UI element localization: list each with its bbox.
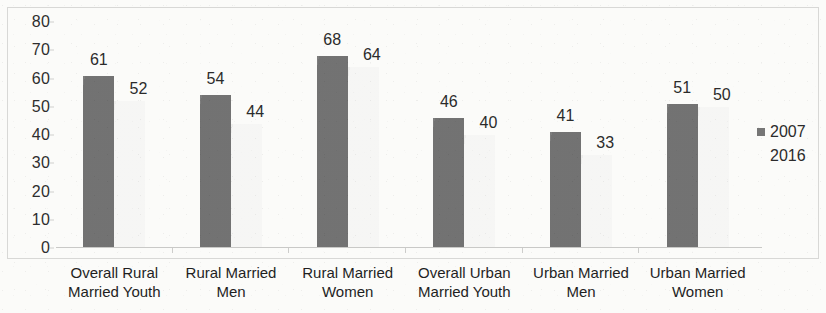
category-label-line: Urban Married	[650, 264, 746, 281]
category-label-line: Men	[175, 282, 288, 301]
bar-2016[interactable]: 52	[114, 101, 145, 248]
category-label-line: Overall Urban	[418, 264, 511, 281]
category-label-line: Married Youth	[58, 282, 171, 301]
bar-value-label: 44	[246, 104, 264, 120]
chart-legend: 20072016	[757, 120, 821, 168]
y-axis-tick-mark	[50, 22, 54, 23]
bar-pair: 6864	[289, 22, 406, 248]
x-axis-tick-mark	[405, 248, 406, 253]
bar-pair: 5444	[173, 22, 290, 248]
y-axis-tick-mark	[50, 191, 54, 192]
bar-2007[interactable]: 61	[83, 76, 114, 248]
bar-group: 6152	[56, 22, 173, 248]
category-label-line: Women	[291, 282, 404, 301]
bar-value-label: 40	[480, 115, 498, 131]
bar-pair: 4133	[523, 22, 640, 248]
y-axis-tick-mark	[50, 50, 54, 51]
legend-label: 2007	[770, 124, 806, 140]
y-axis-tick-mark	[50, 248, 54, 249]
x-axis-category-label: Urban MarriedWomen	[639, 263, 756, 301]
bar-2007[interactable]: 41	[550, 132, 581, 248]
bar-groups: 615254446864464041335150	[56, 22, 756, 248]
bar-2016[interactable]: 33	[581, 155, 612, 248]
x-axis-category-label: Rural MarriedMen	[173, 263, 290, 301]
bar-2007[interactable]: 68	[317, 56, 348, 248]
bar-2007[interactable]: 54	[200, 95, 231, 248]
bar-2016[interactable]: 50	[698, 107, 729, 248]
bar-value-label: 33	[596, 135, 614, 151]
y-axis-tick-label: 0	[20, 240, 50, 256]
plot-area: 615254446864464041335150	[56, 22, 756, 248]
x-axis-category-label: Rural MarriedWomen	[289, 263, 406, 301]
x-axis-tick-mark	[638, 248, 639, 253]
bar-value-label: 46	[440, 94, 458, 110]
legend-item-2016[interactable]: 2016	[757, 144, 821, 168]
y-axis-tick-mark	[50, 163, 54, 164]
y-axis-tick-label: 50	[20, 99, 50, 115]
legend-item-2007[interactable]: 2007	[757, 120, 821, 144]
category-label-line: Men	[525, 282, 638, 301]
y-axis-tick-label: 10	[20, 212, 50, 228]
x-axis-tick-mark	[288, 248, 289, 253]
x-axis-category-labels: Overall RuralMarried YouthRural MarriedM…	[56, 263, 756, 301]
y-axis-tick-label: 70	[20, 42, 50, 58]
x-axis-category-label: Overall RuralMarried Youth	[56, 263, 173, 301]
bar-group: 6864	[289, 22, 406, 248]
y-axis-tick-label: 30	[20, 155, 50, 171]
bar-2007[interactable]: 46	[433, 118, 464, 248]
bar-2016[interactable]: 44	[231, 124, 262, 248]
bar-2016[interactable]: 64	[348, 67, 379, 248]
y-axis: 01020304050607080	[14, 0, 50, 313]
y-axis-tick-label: 20	[20, 184, 50, 200]
bar-pair: 6152	[56, 22, 173, 248]
y-axis-tick-mark	[50, 106, 54, 107]
legend-swatch-icon	[757, 128, 765, 136]
bar-value-label: 68	[323, 32, 341, 48]
scanned-page-background: 01020304050607080 6152544468644640413351…	[0, 0, 826, 313]
x-axis-category-label: Overall UrbanMarried Youth	[406, 263, 523, 301]
category-label-line: Rural Married	[186, 264, 277, 281]
category-label-line: Overall Rural	[71, 264, 159, 281]
bar-group: 5150	[639, 22, 756, 248]
y-axis-tick-mark	[50, 219, 54, 220]
y-axis-tick-label: 80	[20, 14, 50, 30]
bar-value-label: 51	[673, 80, 691, 96]
x-axis-tick-mark	[172, 248, 173, 253]
category-label-line: Women	[641, 282, 754, 301]
bar-pair: 5150	[639, 22, 756, 248]
y-axis-tick-mark	[50, 78, 54, 79]
bar-pair: 4640	[406, 22, 523, 248]
category-label-line: Urban Married	[533, 264, 629, 281]
bar-value-label: 41	[557, 108, 575, 124]
x-axis-baseline	[56, 247, 762, 248]
bar-2016[interactable]: 40	[464, 135, 495, 248]
bar-group: 5444	[173, 22, 290, 248]
bar-value-label: 54	[207, 71, 225, 87]
bar-value-label: 64	[363, 47, 381, 63]
x-axis-tick-mark	[522, 248, 523, 253]
y-axis-tick-mark	[50, 135, 54, 136]
y-axis-tick-label: 40	[20, 127, 50, 143]
y-axis-tick-label: 60	[20, 71, 50, 87]
bar-value-label: 50	[713, 87, 731, 103]
bar-group: 4133	[523, 22, 640, 248]
legend-label: 2016	[770, 148, 806, 164]
bar-2007[interactable]: 51	[667, 104, 698, 248]
category-label-line: Rural Married	[302, 264, 393, 281]
bar-group: 4640	[406, 22, 523, 248]
bar-value-label: 61	[90, 52, 108, 68]
bar-value-label: 52	[130, 81, 148, 97]
x-axis-category-label: Urban MarriedMen	[523, 263, 640, 301]
category-label-line: Married Youth	[408, 282, 521, 301]
